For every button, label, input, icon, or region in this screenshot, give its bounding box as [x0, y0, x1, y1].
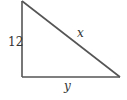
- hypotenuse-line: [22, 1, 120, 77]
- triangle: [22, 1, 120, 77]
- horizontal-leg-label: y: [63, 79, 71, 93]
- right-triangle-diagram: 12 x y: [0, 0, 127, 100]
- hypotenuse-label: x: [77, 26, 84, 40]
- vertical-leg-label: 12: [8, 35, 23, 49]
